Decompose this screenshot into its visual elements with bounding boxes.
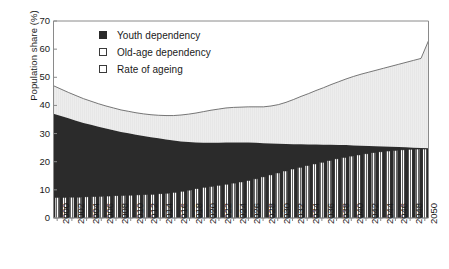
x-tick-label: 2036 xyxy=(326,203,336,224)
x-tick-label: 2038 xyxy=(341,203,351,224)
x-tick-label: 2034 xyxy=(311,203,321,224)
legend-swatch-filled-square-icon xyxy=(99,31,107,39)
x-tick-label: 2032 xyxy=(296,203,306,224)
x-tick-label: 2004 xyxy=(91,203,101,224)
legend-item-youth-dependency: Youth dependency xyxy=(99,27,279,43)
x-tick-label: 2022 xyxy=(223,203,233,224)
x-tick-label: 2042 xyxy=(370,203,380,224)
x-tick-label: 2050 xyxy=(429,203,439,224)
x-tick-label: 2026 xyxy=(252,203,262,224)
x-tick-label: 2016 xyxy=(179,203,189,224)
legend-swatch-open-square-icon xyxy=(99,48,107,56)
x-tick-label: 2028 xyxy=(267,203,277,224)
legend-item-old-age-dependency: Old-age dependency xyxy=(99,44,279,60)
x-tick-label: 2048 xyxy=(414,203,424,224)
x-tick-label: 2014 xyxy=(164,203,174,224)
x-tick-label: 2044 xyxy=(385,203,395,224)
legend-item-rate-of-ageing: Rate of ageing xyxy=(99,61,279,77)
x-tick-label: 2010 xyxy=(135,203,145,224)
x-tick-label: 2012 xyxy=(149,203,159,224)
x-tick-label: 2024 xyxy=(238,203,248,224)
legend-label: Old-age dependency xyxy=(117,47,211,58)
x-tick-label: 2006 xyxy=(105,203,115,224)
legend-label: Youth dependency xyxy=(117,30,200,41)
x-tick-label: 2030 xyxy=(282,203,292,224)
legend-label: Rate of ageing xyxy=(117,64,183,75)
x-tick-label: 2046 xyxy=(399,203,409,224)
x-tick-label: 2040 xyxy=(355,203,365,224)
chart-legend: Youth dependency Old-age dependency Rate… xyxy=(99,27,279,78)
x-tick-label: 2002 xyxy=(76,203,86,224)
x-tick-label: 2000 xyxy=(61,203,71,224)
legend-swatch-open-square-icon xyxy=(99,65,107,73)
chart-figure: Population share (%) 010203040506070 200… xyxy=(0,0,449,269)
x-tick-label: 2018 xyxy=(194,203,204,224)
x-tick-label: 2020 xyxy=(208,203,218,224)
x-tick-label: 2008 xyxy=(120,203,130,224)
